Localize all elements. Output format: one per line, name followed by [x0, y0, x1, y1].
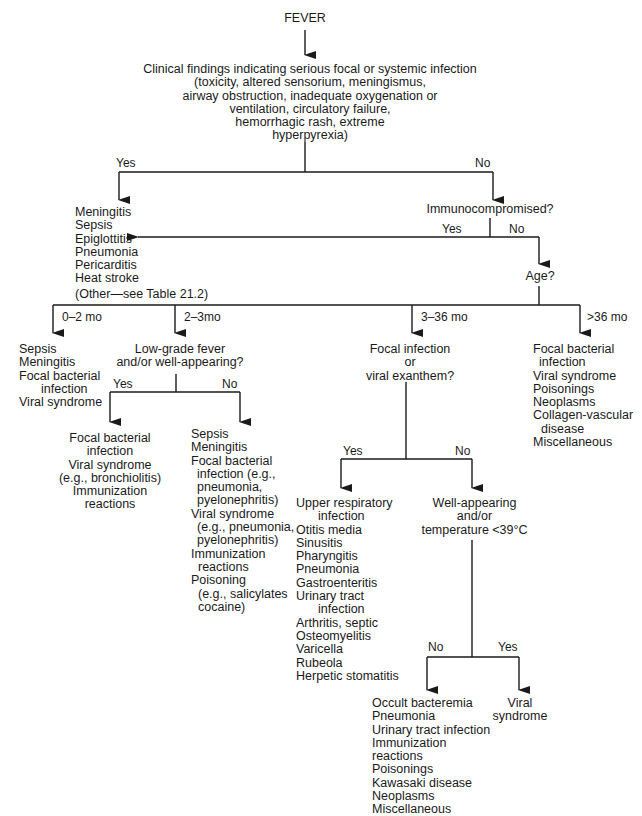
list-item: Arthritis, septic	[296, 617, 399, 630]
list-item: Viral syndrome	[19, 396, 102, 409]
list-item: reactions	[191, 561, 294, 574]
list-item: pyelonephritis)	[191, 534, 294, 547]
list-item: pyelonephritis)	[191, 494, 294, 507]
list-item: Meningitis	[191, 441, 294, 454]
well-appearing-yes-label: Yes	[498, 640, 518, 654]
immuno-yes-label: Yes	[442, 222, 462, 236]
list-item: cocaine)	[191, 601, 294, 614]
list-item: Otitis media	[296, 524, 399, 537]
list-item: Miscellaneous	[372, 803, 490, 816]
list-item: Viral	[490, 697, 550, 710]
clinical-findings-node: Clinical findings indicating serious foc…	[120, 63, 500, 143]
immunocompromised-node: Immunocompromised?	[410, 203, 570, 216]
list-item: Neoplasms	[372, 790, 490, 803]
list-item: Herpetic stomatitis	[296, 670, 399, 683]
list-item: infection	[296, 510, 399, 523]
list-item: Osteomyelitis	[296, 630, 399, 643]
list-item: Epiglottitis	[75, 233, 208, 246]
list-item: infection	[533, 356, 633, 369]
age-branch-0-2: 0–2 mo	[62, 310, 102, 324]
clinical-yes-label: Yes	[116, 156, 136, 170]
question-line: viral exanthem?	[355, 370, 465, 383]
age-0-2-list: Sepsis Meningitis Focal bacterial infect…	[19, 343, 102, 409]
clinical-findings-line: hemorrhagic rash, extreme	[120, 116, 500, 129]
list-item: syndrome	[490, 710, 550, 723]
list-item: Urinary tract infection	[372, 724, 490, 737]
list-item: Poisonings	[533, 383, 633, 396]
list-item: Sepsis	[75, 219, 208, 232]
list-item: Focal bacterial	[40, 432, 180, 445]
list-item: (e.g., salicylates	[191, 588, 294, 601]
list-item: (Other—see Table 21.2)	[75, 288, 208, 301]
clinical-findings-line: hyperpyrexia)	[120, 129, 500, 142]
list-item: Rubeola	[296, 657, 399, 670]
focal-yes-list: Upper respiratory infection Otitis media…	[296, 497, 399, 683]
list-item: Gastroenteritis	[296, 577, 399, 590]
list-item: Focal bacterial	[533, 343, 633, 356]
list-item: Heat stroke	[75, 272, 208, 285]
list-item: (e.g., bronchiolitis)	[40, 472, 180, 485]
low-grade-no-label: No	[222, 377, 237, 391]
age-branch-over-36: >36 mo	[587, 310, 627, 324]
clinical-findings-title: Clinical findings indicating serious foc…	[120, 63, 500, 76]
list-item: (e.g., pneumonia,	[191, 521, 294, 534]
low-grade-fever-node: Low-grade fever and/or well-appearing?	[105, 343, 255, 370]
list-item: infection	[19, 383, 102, 396]
question-line: and/or well-appearing?	[105, 356, 255, 369]
well-appearing-no-label: No	[428, 640, 443, 654]
list-item: Varicella	[296, 643, 399, 656]
clinical-findings-line: ventilation, circulatory failure,	[120, 103, 500, 116]
focal-yes-label: Yes	[343, 444, 363, 458]
list-item: Focal bacterial	[191, 455, 294, 468]
clinical-findings-line: (toxicity, altered sensorium, meningismu…	[120, 76, 500, 89]
well-appearing-no-list: Occult bacteremia Pneumonia Urinary trac…	[372, 697, 490, 816]
clinical-findings-line: airway obstruction, inadequate oxygenati…	[120, 90, 500, 103]
list-item: Poisonings	[372, 763, 490, 776]
list-item: Immunization	[372, 737, 490, 750]
age-branch-2-3: 2–3mo	[184, 310, 221, 324]
list-item: Immunization	[191, 548, 294, 561]
question-line: Well-appearing	[412, 497, 537, 510]
age-over-36-list: Focal bacterial infection Viral syndrome…	[533, 343, 633, 449]
low-grade-no-list: Sepsis Meningitis Focal bacterial infect…	[191, 428, 294, 614]
list-item: Occult bacteremia	[372, 697, 490, 710]
list-item: infection	[40, 445, 180, 458]
list-item: Neoplasms	[533, 396, 633, 409]
list-item: Kawasaki disease	[372, 777, 490, 790]
list-item: Sepsis	[19, 343, 102, 356]
low-grade-yes-label: Yes	[113, 377, 133, 391]
list-item: Focal bacterial	[19, 370, 102, 383]
list-item: Immunization	[40, 485, 180, 498]
list-item: infection (e.g.,	[191, 468, 294, 481]
list-item: Pneumonia	[296, 563, 399, 576]
list-item: Collagen-vascular	[533, 409, 633, 422]
list-item: Pharyngitis	[296, 550, 399, 563]
list-item: Meningitis	[19, 356, 102, 369]
question-line: Focal infection	[355, 343, 465, 356]
well-appearing-node: Well-appearing and/or temperature <39°C	[412, 497, 537, 537]
list-item: Viral syndrome	[191, 508, 294, 521]
list-item: Viral syndrome	[533, 370, 633, 383]
age-branch-3-36: 3–36 mo	[421, 310, 468, 324]
question-line: and/or	[412, 510, 537, 523]
list-item: Meningitis	[75, 206, 208, 219]
list-item: Viral syndrome	[40, 459, 180, 472]
focal-no-label: No	[455, 444, 470, 458]
list-item: Upper respiratory	[296, 497, 399, 510]
low-grade-yes-list: Focal bacterial infection Viral syndrome…	[40, 432, 180, 512]
list-item: infection	[296, 603, 399, 616]
age-node: Age?	[510, 270, 570, 283]
focal-infection-node: Focal infection or viral exanthem?	[355, 343, 465, 383]
list-item: Pericarditis	[75, 259, 208, 272]
list-item: Sepsis	[191, 428, 294, 441]
question-line: Low-grade fever	[105, 343, 255, 356]
immuno-no-label: No	[509, 222, 524, 236]
root-node-fever: FEVER	[255, 12, 355, 25]
list-item: reactions	[40, 498, 180, 511]
list-item: disease	[533, 423, 633, 436]
question-line: or	[355, 356, 465, 369]
list-item: Poisoning	[191, 574, 294, 587]
list-item: Miscellaneous	[533, 436, 633, 449]
serious-infection-list: Meningitis Sepsis Epiglottitis Pneumonia…	[75, 206, 208, 301]
list-item: Sinusitis	[296, 537, 399, 550]
